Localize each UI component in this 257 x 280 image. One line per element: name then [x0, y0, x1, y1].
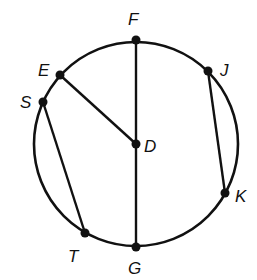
circle-diagram: FESDJKTG: [0, 0, 257, 280]
label-F: F: [128, 10, 140, 29]
label-K: K: [235, 187, 247, 206]
point-G: [132, 243, 141, 252]
point-K: [221, 189, 230, 198]
label-J: J: [219, 61, 229, 80]
label-E: E: [38, 61, 50, 80]
point-F: [132, 36, 141, 45]
label-S: S: [20, 93, 32, 112]
radius-ED: [60, 75, 136, 144]
point-E: [56, 71, 65, 80]
label-G: G: [128, 259, 141, 278]
point-T: [81, 229, 90, 238]
point-D: [132, 140, 141, 149]
point-J: [204, 67, 213, 76]
chord-ST: [43, 102, 85, 233]
label-D: D: [144, 137, 156, 156]
label-T: T: [68, 247, 80, 266]
point-S: [39, 98, 48, 107]
